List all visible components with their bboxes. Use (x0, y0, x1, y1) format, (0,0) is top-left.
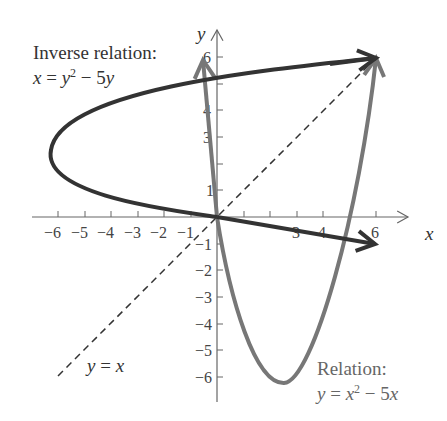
svg-text:−2: −2 (150, 224, 167, 241)
svg-text:−4: −4 (97, 224, 114, 241)
relation-label: Relation: y = x2 − 5x (317, 358, 398, 405)
svg-text:−5: −5 (195, 342, 212, 359)
svg-text:−6: −6 (195, 369, 212, 386)
svg-text:−3: −3 (195, 289, 212, 306)
identity-label: y = x (87, 355, 124, 377)
svg-text:−2: −2 (195, 262, 212, 279)
inverse-relation-title: Inverse relation: (33, 42, 157, 64)
svg-text:−3: −3 (124, 224, 141, 241)
y-axis-label: y (195, 23, 206, 44)
inverse-relation-label: Inverse relation: x = y2 − 5y (33, 42, 157, 89)
svg-text:−5: −5 (71, 224, 88, 241)
svg-text:−1: −1 (177, 224, 194, 241)
svg-text:−1: −1 (195, 236, 212, 253)
svg-text:−4: −4 (195, 316, 212, 333)
relation-title: Relation: (317, 358, 398, 380)
relation-equation: y = x2 − 5x (317, 382, 398, 405)
svg-text:−6: −6 (44, 224, 61, 241)
inverse-relation-equation: x = y2 − 5y (33, 66, 157, 89)
svg-text:6: 6 (371, 224, 379, 241)
x-axis-label: x (424, 223, 434, 244)
